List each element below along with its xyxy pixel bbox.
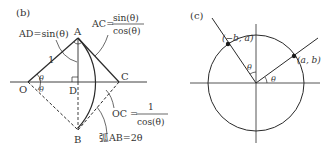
theta-upper: θ xyxy=(39,74,44,83)
segment-cb-dashed xyxy=(78,82,119,130)
oc-formula-lhs: OC = xyxy=(112,108,138,119)
theta-lower-c: θ xyxy=(271,75,276,84)
ac-formula-lhs: AC= xyxy=(91,18,114,29)
point-c-label: C xyxy=(121,71,129,82)
point-a-b-label: (a, b) xyxy=(297,55,321,65)
angle-arc-lower xyxy=(265,77,267,83)
point-a-label: A xyxy=(73,26,82,37)
figure-b: (b) A O D C B 1 θ θ xyxy=(10,7,168,145)
theta-upper-c: θ xyxy=(247,63,252,72)
ac-numerator: sin(θ) xyxy=(113,13,139,23)
theta-lower: θ xyxy=(39,85,44,94)
figure-c-label: (c) xyxy=(190,10,204,21)
point-neg-b-a-label: (−b, a) xyxy=(222,33,254,43)
ac-denominator: cos(θ) xyxy=(113,26,141,36)
oc-denominator: cos(θ) xyxy=(137,117,165,127)
point-a-b xyxy=(292,54,296,58)
point-b-label: B xyxy=(74,134,81,145)
leader-ad xyxy=(56,40,77,62)
segment-ac xyxy=(78,38,119,82)
oc-numerator: 1 xyxy=(148,102,154,112)
arc-ab xyxy=(78,38,96,128)
diagram-canvas: (b) A O D C B 1 θ θ xyxy=(0,0,324,152)
ray-neg-b-a xyxy=(212,18,256,83)
point-o-label: O xyxy=(19,84,27,95)
leader-arc xyxy=(97,107,107,134)
side-length-label: 1 xyxy=(48,54,54,65)
angle-arc-upper xyxy=(250,72,256,74)
leader-ac xyxy=(95,35,108,56)
arc-ab-formula: 弧AB=2θ xyxy=(99,132,143,143)
right-angle-mark xyxy=(72,77,78,82)
ad-formula: AD=sin(θ) xyxy=(18,28,69,39)
figure-c: (c) (−b, a) (a, b) θ θ xyxy=(190,10,321,143)
figure-b-label: (b) xyxy=(16,7,30,18)
leader-oc xyxy=(106,90,114,108)
point-d-label: D xyxy=(69,85,77,96)
